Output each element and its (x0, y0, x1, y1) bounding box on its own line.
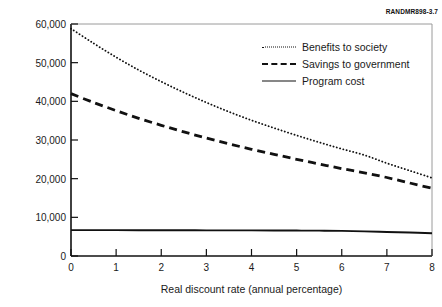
legend-label: Savings to government (302, 58, 409, 70)
y-tick-label: 40,000 (12, 96, 66, 107)
x-tick-label: 2 (149, 262, 173, 273)
x-tick-label: 3 (194, 262, 218, 273)
x-tick-label: 6 (330, 262, 354, 273)
y-tick-label: 50,000 (12, 57, 66, 68)
x-tick-label: 0 (59, 262, 83, 273)
legend-label: Benefits to society (302, 41, 387, 53)
chart-legend: Benefits to society Savings to governmen… (262, 40, 409, 88)
x-tick-label: 7 (375, 262, 399, 273)
legend-item-benefits-to-society: Benefits to society (262, 40, 409, 54)
legend-label: Program cost (302, 75, 364, 87)
figure-id-label: RANDMR898-3.7 (386, 8, 438, 15)
x-axis-ticks (71, 249, 432, 256)
dashed-line-swatch-icon (262, 59, 296, 69)
figure-container: RANDMR898-3.7 NPV dollars per child Real… (0, 0, 442, 307)
y-tick-label: 20,000 (12, 173, 66, 184)
series-line-program-cost (71, 230, 432, 233)
y-tick-label: 30,000 (12, 135, 66, 146)
x-axis-tick-labels: 012345678 (0, 262, 442, 278)
x-tick-label: 8 (420, 262, 442, 273)
y-tick-label: 10,000 (12, 212, 66, 223)
x-tick-label: 5 (285, 262, 309, 273)
y-tick-label: 60,000 (12, 19, 66, 30)
legend-item-program-cost: Program cost (262, 74, 409, 88)
dotted-line-swatch-icon (262, 42, 296, 52)
y-axis-ticks (71, 24, 78, 256)
x-axis-title: Real discount rate (annual percentage) (71, 283, 432, 295)
y-tick-label: 0 (12, 251, 66, 262)
solid-line-swatch-icon (262, 76, 296, 86)
x-tick-label: 4 (240, 262, 264, 273)
series-line-savings-to-government (71, 94, 432, 189)
x-tick-label: 1 (104, 262, 128, 273)
y-axis-tick-labels: 010,00020,00030,00040,00050,00060,000 (8, 0, 66, 307)
legend-item-savings-to-government: Savings to government (262, 57, 409, 71)
